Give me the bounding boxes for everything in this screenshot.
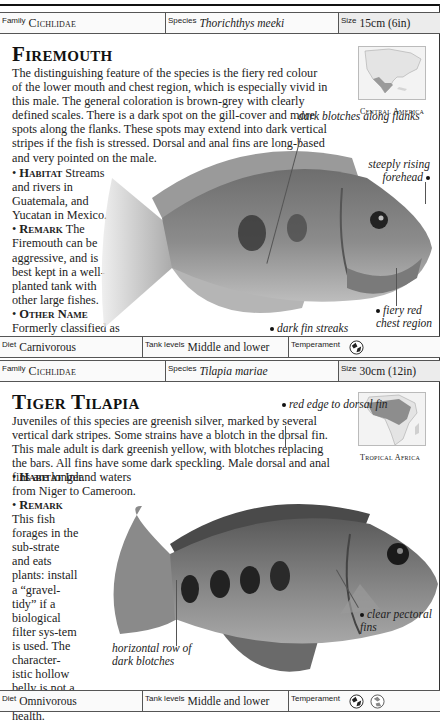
taxonomy-bar: Family Cichlidae Species Tilapia mariae … <box>0 360 440 382</box>
family-cell: Family Cichlidae <box>0 361 166 381</box>
callout-leader-line <box>285 426 286 448</box>
callout-leader-line <box>425 182 426 204</box>
tank-levels-cell: Tank levels Middle and lower <box>143 337 289 357</box>
diet-cell: Diet Carnivorous <box>0 337 143 357</box>
aggressive-fish-icon <box>349 340 364 355</box>
species-label: Species <box>168 16 196 25</box>
temperament-cell: Temperament <box>289 691 440 711</box>
species-value: Tilapia mariae <box>199 365 267 377</box>
callout-leader-line <box>176 580 177 646</box>
species-title: Firemouth <box>12 42 113 67</box>
species-entry-tiger-tilapia: Family Cichlidae Species Tilapia mariae … <box>0 358 440 712</box>
species-value: Thorichthys meeki <box>199 17 284 29</box>
aggressive-fish-icon <box>349 694 364 709</box>
remark-key: Remark <box>19 222 63 236</box>
species-title: Tiger Tilapia <box>12 390 140 415</box>
size-value: 30cm (12in) <box>360 365 417 377</box>
family-value: Cichlidae <box>29 364 77 379</box>
callout-dot <box>282 403 286 407</box>
callout-dot <box>376 309 380 313</box>
tank-levels-label: Tank levels <box>145 694 185 703</box>
aquarium-fish-guide-page: Family Cichlidae Species Thorichthys mee… <box>0 0 446 720</box>
tank-levels-value: Middle and lower <box>188 695 270 707</box>
temperament-label: Temperament <box>291 694 340 703</box>
family-label: Family <box>2 16 26 25</box>
callout-dark-blotches: dark blotches along flanks <box>298 110 420 123</box>
callout-dot <box>360 613 364 617</box>
diet-label: Diet <box>2 694 16 703</box>
family-value: Cichlidae <box>29 16 77 31</box>
territorial-fish-icon <box>370 694 385 709</box>
other-name-key: Other Name <box>19 307 87 321</box>
callout-forehead: steeply rising forehead <box>352 158 430 184</box>
diet-label: Diet <box>2 340 16 349</box>
habitat-key: Habitat <box>19 470 62 484</box>
size-value: 15cm (6in) <box>360 17 411 29</box>
species-cell: Species Thorichthys meeki <box>166 13 339 33</box>
callout-horizontal-blotches: horizontal row of dark blotches <box>112 642 202 668</box>
care-bar: Diet Omnivorous Tank levels Middle and l… <box>0 690 440 712</box>
tank-levels-label: Tank levels <box>145 340 185 349</box>
callout-dot <box>426 176 430 180</box>
species-cell: Species Tilapia mariae <box>166 361 339 381</box>
north-america-map-icon <box>359 47 426 100</box>
temperament-cell: Temperament <box>289 337 440 357</box>
callout-fin-streaks: dark fin streaks <box>270 322 348 335</box>
remark-key: Remark <box>19 498 63 512</box>
callout-chest: fiery red chest region <box>376 304 438 330</box>
family-cell: Family Cichlidae <box>0 13 166 33</box>
species-entry-firemouth: Family Cichlidae Species Thorichthys mee… <box>0 4 440 358</box>
diet-cell: Diet Omnivorous <box>0 691 143 711</box>
care-bar: Diet Carnivorous Tank levels Middle and … <box>0 336 440 358</box>
family-label: Family <box>2 364 26 373</box>
diet-value: Carnivorous <box>19 341 76 353</box>
callout-dot <box>270 327 274 331</box>
taxonomy-bar: Family Cichlidae Species Thorichthys mee… <box>0 12 440 34</box>
size-cell: Size 30cm (12in) <box>339 361 440 381</box>
callout-leader-line <box>396 268 397 306</box>
diet-value: Omnivorous <box>19 695 77 707</box>
species-label: Species <box>168 364 196 373</box>
size-cell: Size 15cm (6in) <box>339 13 440 33</box>
tank-levels-value: Middle and lower <box>188 341 270 353</box>
habitat-key: Habitat <box>19 166 62 180</box>
range-map-central-america <box>358 46 426 100</box>
callout-red-edge: red edge to dorsal fin <box>282 398 388 411</box>
range-map-label: Tropical Africa <box>360 452 420 464</box>
tank-levels-cell: Tank levels Middle and lower <box>143 691 289 711</box>
callout-pectoral: clear pectoral fins <box>360 608 436 634</box>
size-label: Size <box>341 364 357 373</box>
temperament-label: Temperament <box>291 340 340 349</box>
size-label: Size <box>341 16 357 25</box>
